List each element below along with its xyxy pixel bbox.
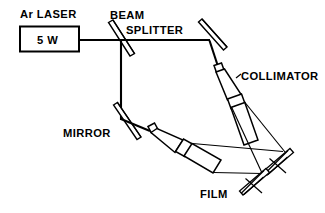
film-plate-upper-midline xyxy=(266,151,289,174)
collimator-left-barrel xyxy=(184,144,221,174)
optical-setup-diagram: Ar LASER 5 W BEAM SPLITTER COLLIMATOR MI… xyxy=(0,0,325,213)
beam-splitter-label-line2: SPLITTER xyxy=(126,24,183,36)
collimator-label: COLLIMATOR xyxy=(241,70,319,82)
film-label: FILM xyxy=(200,188,228,200)
laser-title-label: Ar LASER xyxy=(20,8,77,20)
ray-left-collimator-lower xyxy=(214,173,263,174)
laser-power-label: 5 W xyxy=(37,34,58,46)
mirror-top-right-plate xyxy=(199,19,228,50)
ray-left-collimator-upper xyxy=(193,144,284,152)
collimator-left xyxy=(148,123,221,173)
mirror-top-right-edge xyxy=(202,19,227,47)
mirror-label: MIRROR xyxy=(63,127,111,139)
beam-splitter-label-line1: BEAM xyxy=(110,9,145,21)
mirror-top-right xyxy=(199,19,228,50)
collimator-right-barrel xyxy=(231,103,258,146)
film-plate-lower xyxy=(240,169,270,196)
optics-canvas: Ar LASER 5 W BEAM SPLITTER COLLIMATOR MI… xyxy=(0,0,325,213)
